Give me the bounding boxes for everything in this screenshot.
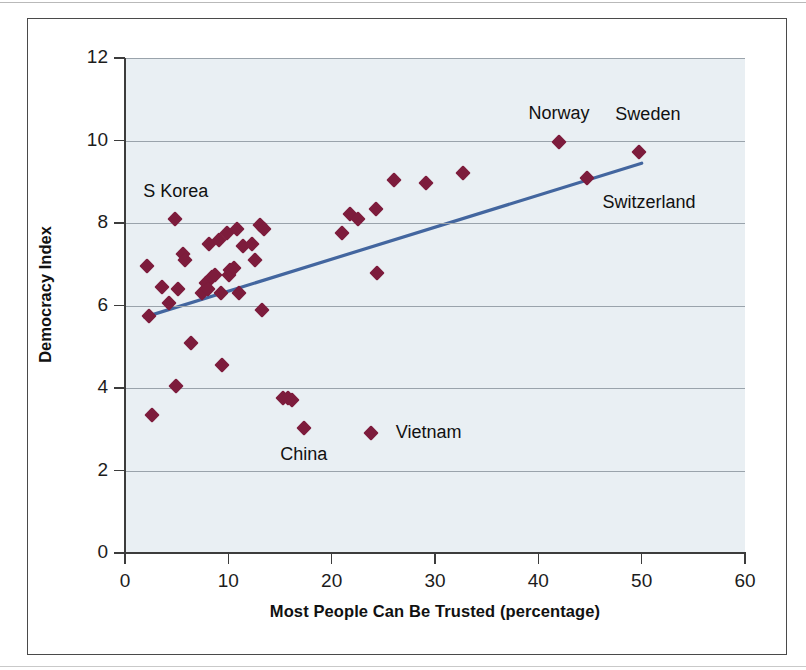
data-point-switzerland: [579, 171, 595, 187]
gridline-y-8: [125, 223, 745, 224]
data-point: [369, 266, 385, 282]
gridline-y-4: [125, 388, 745, 389]
x-tick-label-30: 30: [405, 570, 465, 592]
x-tick-60: [744, 553, 746, 564]
plot-area: [125, 58, 745, 553]
x-tick-label-40: 40: [508, 570, 568, 592]
data-point: [386, 172, 402, 188]
data-point: [139, 259, 155, 275]
data-point-vietnam: [363, 426, 379, 442]
page-bottom-rule: [0, 666, 806, 667]
page-top-rule: [0, 2, 806, 3]
y-tick-label-8: 8: [60, 211, 108, 233]
data-point: [213, 285, 229, 301]
data-point: [255, 302, 271, 318]
figure-container: Democracy Index Most People Can Be Trust…: [0, 0, 806, 670]
y-tick-label-6: 6: [60, 294, 108, 316]
data-point: [141, 308, 157, 324]
y-tick-label-0: 0: [60, 541, 108, 563]
data-point-norway: [551, 134, 567, 150]
gridline-y-12: [125, 58, 745, 59]
data-point: [231, 285, 247, 301]
annotation-norway: Norway: [529, 103, 590, 124]
x-tick-label-10: 10: [198, 570, 258, 592]
data-point: [154, 279, 170, 295]
x-tick-30: [434, 553, 436, 564]
x-tick-0: [124, 553, 126, 564]
data-point-s-korea: [167, 211, 183, 227]
y-tick-12: [114, 57, 125, 59]
y-tick-4: [114, 387, 125, 389]
data-point: [144, 407, 160, 423]
data-point: [368, 201, 384, 217]
gridline-y-6: [125, 306, 745, 307]
x-tick-label-60: 60: [715, 570, 775, 592]
x-tick-label-50: 50: [612, 570, 672, 592]
annotation-s-korea: S Korea: [143, 181, 208, 202]
data-point: [168, 378, 184, 394]
y-tick-label-12: 12: [60, 46, 108, 68]
data-point: [214, 358, 230, 374]
x-tick-10: [228, 553, 230, 564]
x-tick-label-0: 0: [95, 570, 155, 592]
y-tick-10: [114, 140, 125, 142]
gridline-y-10: [125, 141, 745, 142]
gridline-y-2: [125, 471, 745, 472]
data-point: [183, 335, 199, 351]
x-tick-label-20: 20: [302, 570, 362, 592]
data-point: [455, 165, 471, 181]
y-tick-2: [114, 470, 125, 472]
annotation-china: China: [280, 444, 327, 465]
annotation-sweden: Sweden: [615, 104, 680, 125]
x-tick-20: [331, 553, 333, 564]
y-tick-label-4: 4: [60, 376, 108, 398]
data-point: [334, 226, 350, 242]
x-tick-40: [538, 553, 540, 564]
annotation-vietnam: Vietnam: [396, 422, 462, 443]
y-tick-label-10: 10: [60, 129, 108, 151]
x-axis-title: Most People Can Be Trusted (percentage): [125, 602, 745, 621]
y-tick-6: [114, 305, 125, 307]
data-point-sweden: [631, 144, 647, 160]
y-tick-label-2: 2: [60, 459, 108, 481]
y-axis-title: Democracy Index: [36, 195, 55, 395]
data-point: [418, 175, 434, 191]
data-point: [162, 296, 178, 312]
x-tick-50: [641, 553, 643, 564]
y-tick-8: [114, 222, 125, 224]
data-point: [247, 252, 263, 268]
data-point: [170, 281, 186, 297]
annotation-switzerland: Switzerland: [602, 192, 695, 213]
data-point-china: [296, 420, 312, 436]
